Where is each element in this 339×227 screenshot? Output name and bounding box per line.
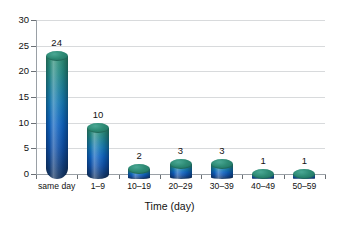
x-axis-tick-label: 50–59	[284, 181, 325, 191]
x-axis-tick-label: 30–39	[201, 181, 242, 191]
y-axis-tick	[31, 46, 36, 47]
x-axis-tick	[284, 175, 285, 179]
bar-cylinder	[211, 159, 233, 179]
y-axis-tick	[31, 123, 36, 124]
bar-top-cap	[128, 164, 150, 174]
x-axis-tick	[242, 175, 243, 179]
x-axis-title: Time (day)	[0, 200, 339, 212]
bar-value-label: 24	[51, 38, 62, 48]
y-axis-tick-label: 5	[0, 143, 29, 153]
bar-cylinder	[252, 169, 274, 179]
bar-top-cap	[293, 169, 315, 179]
bar-top-cap	[211, 159, 233, 169]
gridline	[36, 97, 325, 98]
x-axis-tick-label: 40–49	[242, 181, 283, 191]
gridline	[36, 46, 325, 47]
gridline	[36, 123, 325, 124]
bar-value-label: 10	[93, 110, 104, 120]
bar-top-cap	[252, 169, 274, 179]
bar-cylinder	[46, 51, 68, 179]
bar-body	[87, 128, 109, 179]
y-axis-tick-label: 20	[0, 66, 29, 76]
gridline	[36, 20, 325, 21]
bar-value-label: 1	[302, 156, 307, 166]
y-axis-tick-label: 15	[0, 92, 29, 102]
gridline	[36, 71, 325, 72]
y-axis-tick-label: 25	[0, 41, 29, 51]
bar-value-label: 2	[137, 151, 142, 161]
bar-cylinder	[170, 159, 192, 179]
x-axis-tick	[201, 175, 202, 179]
x-axis-tick-label: 20–29	[160, 181, 201, 191]
bar-cylinder	[293, 169, 315, 179]
y-axis-tick-label: 0	[0, 169, 29, 179]
x-axis-tick-label: 1–9	[77, 181, 118, 191]
y-axis-line	[36, 20, 37, 175]
bar-top-cap	[170, 159, 192, 169]
y-axis-tick	[31, 148, 36, 149]
bar-body	[46, 56, 68, 179]
x-axis-tick	[160, 175, 161, 179]
bar-chart: 051015202530 same day1–910–1920–2930–394…	[0, 0, 339, 227]
x-axis-tick-label: same day	[36, 181, 77, 191]
bar-value-label: 3	[178, 146, 183, 156]
y-axis-tick-label: 10	[0, 118, 29, 128]
y-axis-tick	[31, 97, 36, 98]
y-axis-tick	[31, 71, 36, 72]
bar-value-label: 3	[219, 146, 224, 156]
bar-value-label: 1	[260, 156, 265, 166]
bar-cylinder	[128, 164, 150, 179]
y-axis-tick-label: 30	[0, 15, 29, 25]
bar-top-cap	[46, 51, 68, 61]
x-axis-tick	[77, 175, 78, 179]
x-axis-tick	[325, 175, 326, 179]
x-axis-tick	[119, 175, 120, 179]
bar-top-cap	[87, 123, 109, 133]
bar-cylinder	[87, 123, 109, 179]
x-axis-tick-label: 10–19	[119, 181, 160, 191]
x-axis-tick	[36, 175, 37, 179]
y-axis-tick	[31, 20, 36, 21]
